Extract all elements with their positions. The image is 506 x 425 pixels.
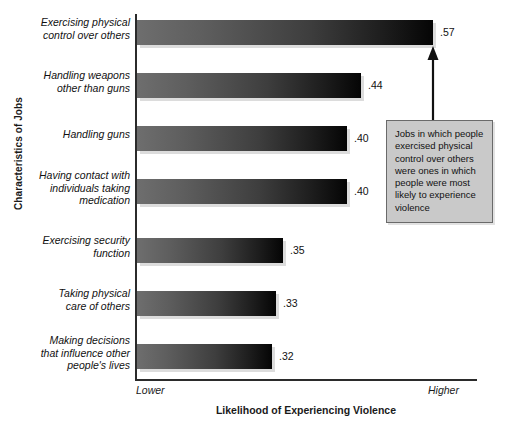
bar-value-label: .33: [283, 297, 298, 309]
category-label: Making decisions that influence other pe…: [0, 334, 130, 372]
bar: [137, 179, 347, 204]
bar-container: [137, 20, 433, 45]
category-label-line: Taking physical: [59, 287, 130, 299]
x-axis-low-label: Lower: [136, 384, 165, 396]
category-label-line: that influence other: [41, 347, 130, 359]
bar-value-label: .44: [368, 79, 383, 91]
bar: [137, 291, 276, 316]
category-label: Exercising security function: [0, 234, 130, 259]
bar-chart: Characteristics of Jobs Exercising physi…: [0, 0, 506, 425]
category-label-line: Exercising physical: [41, 16, 130, 28]
category-label-line: people's lives: [67, 359, 130, 371]
bar-row: Exercising physical control over others …: [0, 20, 506, 45]
annotation-text: Jobs in which people exercised physical …: [395, 128, 490, 214]
category-label-line: Making decisions: [49, 334, 130, 346]
bar-value-label: .57: [440, 26, 455, 38]
category-label-line: individuals taking: [50, 182, 130, 194]
bar-container: [137, 126, 347, 151]
bar-container: [137, 238, 283, 263]
bar-row: Exercising security function .35: [0, 238, 506, 263]
annotation-arrow-icon: [418, 44, 448, 124]
category-label-line: Having contact with: [39, 169, 130, 181]
category-label: Taking physical care of others: [0, 287, 130, 312]
bar-value-label: .40: [354, 132, 369, 144]
category-label: Exercising physical control over others: [0, 16, 130, 41]
bar-container: [137, 73, 361, 98]
category-label-line: care of others: [66, 300, 130, 312]
bar: [137, 344, 272, 369]
category-label-line: control over others: [43, 29, 130, 41]
bar-value-label: .35: [290, 244, 305, 256]
category-label: Handling weapons other than guns: [0, 69, 130, 94]
bar-container: [137, 344, 272, 369]
x-axis-title: Likelihood of Experiencing Violence: [135, 404, 477, 416]
category-label-line: Exercising security: [42, 234, 130, 246]
bar-value-label: .32: [279, 350, 294, 362]
x-axis-high-label: Higher: [428, 384, 459, 396]
x-axis-line: [135, 379, 477, 381]
bar-row: Taking physical care of others .33: [0, 291, 506, 316]
category-label-line: function: [93, 247, 130, 259]
bar-container: [137, 291, 276, 316]
bar: [137, 126, 347, 151]
category-label: Having contact with individuals taking m…: [0, 169, 130, 207]
bar-container: [137, 179, 347, 204]
bar-value-label: .40: [354, 185, 369, 197]
category-label-line: other than guns: [57, 82, 130, 94]
bar: [137, 73, 361, 98]
category-label-line: medication: [79, 194, 130, 206]
bar: [137, 238, 283, 263]
annotation-callout: Jobs in which people exercised physical …: [386, 120, 493, 223]
bar: [137, 20, 433, 45]
bar-row: Making decisions that influence other pe…: [0, 344, 506, 369]
category-label-line: Handling weapons: [44, 69, 130, 81]
category-label: Handling guns: [0, 128, 130, 141]
category-label-line: Handling guns: [63, 128, 130, 140]
